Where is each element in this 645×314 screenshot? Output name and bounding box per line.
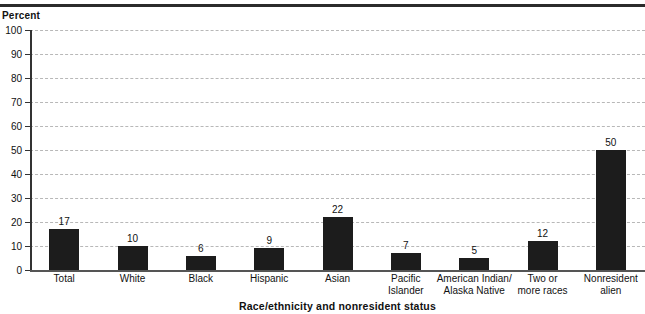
bar-group[interactable]: 9 bbox=[238, 235, 300, 270]
y-axis-tick-label: 40 bbox=[11, 169, 22, 180]
bar-value-label: 7 bbox=[403, 240, 409, 252]
x-axis-title: Race/ethnicity and nonresident status bbox=[30, 300, 645, 312]
bar-group[interactable]: 7 bbox=[375, 240, 437, 270]
bar-value-label: 50 bbox=[605, 137, 616, 149]
x-axis-tick-label-line: alien bbox=[568, 285, 645, 297]
x-axis-tick-label-line: Nonresident bbox=[568, 273, 645, 285]
bar-value-label: 6 bbox=[198, 243, 204, 255]
bar-group[interactable]: 17 bbox=[33, 216, 95, 270]
bar-group[interactable]: 22 bbox=[307, 204, 369, 270]
chart-plot-area: 0102030405060708090100 17106922751250 bbox=[30, 30, 645, 271]
y-axis-tick-label: 20 bbox=[11, 217, 22, 228]
bars-group: 17106922751250 bbox=[30, 30, 645, 271]
y-axis-tick-label: 10 bbox=[11, 241, 22, 252]
y-axis-tick-label: 70 bbox=[11, 97, 22, 108]
bar[interactable] bbox=[459, 258, 489, 270]
bar[interactable] bbox=[118, 246, 148, 270]
bar-value-label: 10 bbox=[127, 233, 138, 245]
bar-group[interactable]: 6 bbox=[170, 243, 232, 270]
bar-value-label: 12 bbox=[537, 228, 548, 240]
x-axis-tick-label: Nonresidentalien bbox=[568, 273, 645, 296]
y-axis-tick-label: 90 bbox=[11, 49, 22, 60]
y-axis-tick-label: 60 bbox=[11, 121, 22, 132]
bar[interactable] bbox=[186, 256, 216, 270]
bar-group[interactable]: 12 bbox=[512, 228, 574, 270]
bar-value-label: 5 bbox=[471, 245, 477, 257]
y-axis-tick-label: 50 bbox=[11, 145, 22, 156]
bar-group[interactable]: 50 bbox=[580, 137, 642, 270]
bar-group[interactable]: 5 bbox=[443, 245, 505, 270]
x-axis-tick-labels: TotalWhiteBlackHispanicAsianPacificIslan… bbox=[30, 273, 645, 299]
bar-value-label: 17 bbox=[59, 216, 70, 228]
y-axis-title: Percent bbox=[2, 10, 40, 21]
bar[interactable] bbox=[254, 248, 284, 270]
bar[interactable] bbox=[391, 253, 421, 270]
bar-group[interactable]: 10 bbox=[102, 233, 164, 270]
y-axis-tick-label: 100 bbox=[5, 25, 22, 36]
top-divider-rule bbox=[0, 4, 645, 7]
bar-value-label: 22 bbox=[332, 204, 343, 216]
bar[interactable] bbox=[49, 229, 79, 270]
bar[interactable] bbox=[323, 217, 353, 270]
y-axis-tick-label: 80 bbox=[11, 73, 22, 84]
bar-value-label: 9 bbox=[266, 235, 272, 247]
y-axis-tick-label: 30 bbox=[11, 193, 22, 204]
bar[interactable] bbox=[596, 150, 626, 270]
bar[interactable] bbox=[528, 241, 558, 270]
